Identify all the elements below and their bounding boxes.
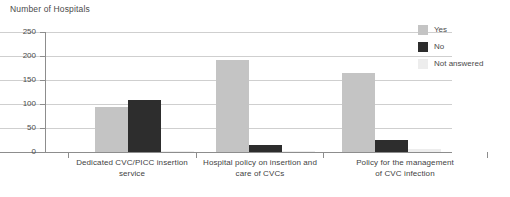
chart-title: Number of Hospitals — [10, 4, 90, 14]
y-tick-mark-200 — [40, 56, 45, 57]
y-axis-line — [45, 32, 46, 152]
legend-swatch-yes-icon — [418, 25, 428, 35]
gridline-250 — [0, 32, 452, 33]
y-tick-label-150: 150 — [10, 76, 36, 84]
bar-no-group-3 — [375, 140, 408, 152]
bar-chart: Number of Hospitals 250 200 150 100 50 0… — [0, 0, 510, 197]
category-label-group-1-line-2: service — [60, 169, 204, 180]
legend-swatch-no-icon — [418, 42, 428, 52]
bar-yes-group-2 — [216, 60, 249, 152]
category-label-group-2-line-1: Hospital policy on insertion and — [188, 158, 332, 169]
legend-label-not-answered: Not answered — [434, 58, 483, 69]
y-tick-mark-0 — [40, 152, 45, 153]
y-tick-mark-50 — [40, 128, 45, 129]
category-label-group-3-line-2: of CVC infection — [333, 169, 477, 180]
y-tick-mark-150 — [40, 80, 45, 81]
category-label-group-1-line-1: Dedicated CVC/PICC insertion — [60, 158, 204, 169]
y-tick-mark-100 — [40, 104, 45, 105]
legend-swatch-not-answered-icon — [418, 59, 428, 69]
category-label-group-2: Hospital policy on insertion and care of… — [188, 158, 332, 179]
y-tick-label-250: 250 — [10, 28, 36, 36]
bar-not-answered-group-1 — [161, 151, 194, 152]
y-tick-label-100: 100 — [10, 100, 36, 108]
y-tick-label-200: 200 — [10, 52, 36, 60]
bar-yes-group-3 — [342, 73, 375, 152]
bar-no-group-2 — [249, 145, 282, 152]
y-tick-mark-250 — [40, 32, 45, 33]
category-label-group-1: Dedicated CVC/PICC insertion service — [60, 158, 204, 179]
y-tick-label-50: 50 — [10, 124, 36, 132]
y-tick-label-0: 0 — [10, 148, 36, 156]
bar-yes-group-1 — [95, 107, 128, 152]
bar-not-answered-group-2 — [282, 151, 315, 152]
bar-no-group-1 — [128, 100, 161, 152]
category-label-group-3-line-1: Policy for the management — [333, 158, 477, 169]
category-label-group-2-line-2: care of CVCs — [188, 169, 332, 180]
gridline-200 — [0, 56, 452, 57]
category-label-group-3: Policy for the management of CVC infecti… — [333, 158, 477, 179]
bar-not-answered-group-3 — [408, 149, 441, 152]
category-tick-3 — [487, 152, 488, 158]
legend-label-yes: Yes — [434, 24, 447, 35]
legend-label-no: No — [434, 41, 444, 52]
